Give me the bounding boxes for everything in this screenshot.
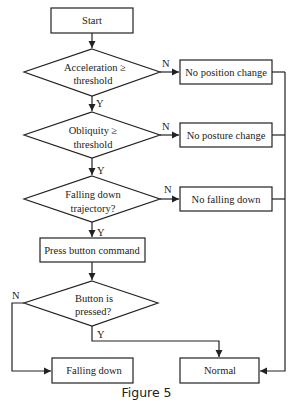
decision-acceleration: Acceleration ≥ threshold [24,49,160,96]
trajectory-line2: trajectory? [71,203,116,214]
node-start: Start [51,8,133,33]
obliquity-line1: Obliquity ≥ [69,125,118,136]
no-falling-down-label: No falling down [192,194,262,205]
label-trajectory-no: N [164,184,172,195]
acceleration-line1: Acceleration ≥ [64,62,126,73]
label-button-yes: Y [97,329,105,340]
decision-trajectory: Falling down trajectory? [24,176,160,222]
button-pressed-line2: pressed? [75,306,111,317]
label-trajectory-yes: Y [97,227,105,238]
label-acceleration-no: N [162,58,170,69]
label-button-no: N [12,290,20,301]
edge-button-yes [92,326,219,357]
label-obliquity-yes: Y [97,165,105,176]
no-position-change-label: No position change [185,67,267,78]
press-button-command-label: Press button command [44,245,140,256]
trajectory-line1: Falling down [65,189,121,200]
edge-collector-to-normal [260,72,285,371]
node-normal: Normal [180,358,259,383]
label-acceleration-yes: Y [96,98,104,109]
no-posture-change-label: No posture change [187,130,266,141]
start-label: Start [82,15,102,26]
normal-label: Normal [204,365,236,376]
node-no-position-change: No position change [180,60,272,84]
edge-button-no [12,303,51,371]
figure-caption: Figure 5 [0,385,293,400]
obliquity-line2: threshold [73,139,113,150]
node-press-button-command: Press button command [40,238,145,262]
node-no-posture-change: No posture change [180,123,272,147]
falling-down-label: Falling down [66,365,122,376]
node-falling-down: Falling down [52,358,133,383]
acceleration-line2: threshold [73,75,113,86]
node-no-falling-down: No falling down [180,187,272,211]
decision-button-pressed: Button is pressed? [24,281,158,326]
label-obliquity-no: N [162,121,170,132]
decision-obliquity: Obliquity ≥ threshold [24,112,160,158]
flowchart: N Y N Y N Y N Y Start Acceleration ≥ thr… [0,0,293,405]
button-pressed-line1: Button is [75,293,113,304]
